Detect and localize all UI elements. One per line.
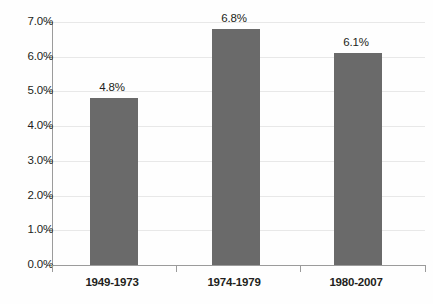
bar-1980-2007 bbox=[334, 53, 382, 265]
y-tick-row-4: 4.0% bbox=[0, 120, 53, 132]
x-tick-mark-1 bbox=[176, 265, 177, 272]
plot-area bbox=[52, 22, 425, 265]
y-tick-label-3: 3.0% bbox=[9, 155, 53, 167]
x-category-label-1980-2007: 1980-2007 bbox=[310, 276, 402, 288]
x-category-label-1949-1973: 1949-1973 bbox=[66, 276, 158, 288]
y-tick-label-5: 5.0% bbox=[9, 85, 53, 97]
y-tick-row-2: 2.0% bbox=[0, 190, 53, 202]
x-tick-mark-2 bbox=[300, 265, 301, 272]
y-tick-row-5: 5.0% bbox=[0, 85, 53, 97]
bar-value-label-1949-1973: 4.8% bbox=[66, 81, 158, 93]
y-tick-label-7: 7.0% bbox=[9, 16, 53, 28]
x-axis-line bbox=[52, 265, 426, 266]
bar-value-label-1980-2007: 6.1% bbox=[310, 36, 402, 48]
y-tick-label-2: 2.0% bbox=[9, 190, 53, 202]
y-tick-label-4: 4.0% bbox=[9, 120, 53, 132]
x-tick-mark-0 bbox=[52, 265, 53, 272]
y-tick-label-1: 1.0% bbox=[9, 224, 53, 236]
bar-chart: 7.0% 6.0% 5.0% 4.0% 3.0% 2.0% 1.0% 0.0% … bbox=[0, 0, 433, 304]
y-tick-row-0: 0.0% bbox=[0, 259, 53, 271]
bar-1949-1973 bbox=[90, 98, 138, 265]
bar-1974-1979 bbox=[212, 29, 260, 265]
y-tick-row-3: 3.0% bbox=[0, 155, 53, 167]
y-tick-label-0: 0.0% bbox=[9, 259, 53, 271]
y-tick-row-7: 7.0% bbox=[0, 16, 53, 28]
x-category-label-1974-1979: 1974-1979 bbox=[188, 276, 280, 288]
y-tick-label-6: 6.0% bbox=[9, 51, 53, 63]
x-tick-mark-3 bbox=[425, 265, 426, 272]
y-tick-row-6: 6.0% bbox=[0, 51, 53, 63]
y-tick-row-1: 1.0% bbox=[0, 224, 53, 236]
bar-value-label-1974-1979: 6.8% bbox=[188, 12, 280, 24]
